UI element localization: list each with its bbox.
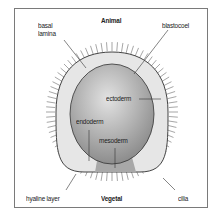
label-cilia: cilia bbox=[178, 195, 188, 203]
blastocoel-ball bbox=[70, 64, 154, 164]
label-basal-lamina-line2: lamina bbox=[38, 30, 56, 38]
pole-label-vegetal: Vegetal bbox=[101, 195, 122, 203]
label-mesoderm: mesoderm bbox=[99, 137, 128, 145]
pole-label-animal: Animal bbox=[101, 17, 121, 25]
label-blastocoel: blastocoel bbox=[162, 22, 189, 30]
label-endoderm: endoderm bbox=[76, 118, 103, 126]
label-ectoderm: ectoderm bbox=[106, 95, 131, 103]
embryo-illustration bbox=[0, 0, 224, 217]
hyaline-layer-leader bbox=[66, 174, 76, 190]
cilia-leader bbox=[163, 178, 175, 190]
label-hyaline-layer: hyaline layer bbox=[26, 195, 60, 203]
